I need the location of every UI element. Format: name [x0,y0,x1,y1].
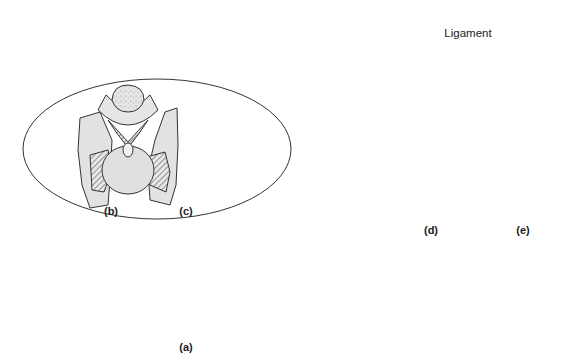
panel-label-b: (b) [104,205,118,217]
panel-label-a: (a) [179,341,192,353]
panel-label-d: (d) [424,224,438,236]
panel-label-c: (c) [179,205,192,217]
ligament-label: Ligament [444,27,491,39]
panel-label-e: (e) [516,224,529,236]
diagram-stage: (b) (c) (d) (e) (a) Ligament [0,0,583,359]
vertebra-front-view-b [78,85,178,208]
